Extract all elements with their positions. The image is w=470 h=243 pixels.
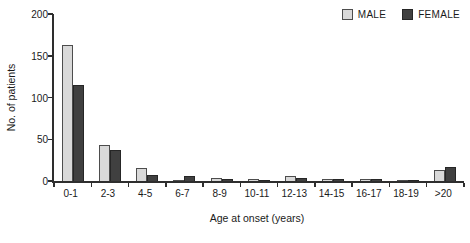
- bar-male-14-15: [322, 179, 333, 182]
- bar-male->20: [434, 170, 445, 181]
- bar-group: [203, 14, 240, 181]
- y-tick-label: 50: [18, 134, 48, 145]
- legend-label-male: MALE: [358, 9, 386, 20]
- x-tick-mark: [240, 183, 242, 187]
- x-tick-mark: [165, 183, 167, 187]
- y-tick-mark: [48, 97, 53, 99]
- bar-male-2-3: [99, 145, 110, 181]
- bar-male-16-17: [360, 179, 371, 182]
- x-tick-label: 8-9: [201, 188, 238, 199]
- legend-item-female: FEMALE: [402, 9, 460, 20]
- y-tick-mark: [48, 13, 53, 15]
- bar-male-4-5: [136, 168, 147, 181]
- legend-item-male: MALE: [342, 9, 386, 20]
- x-tick-mark: [351, 183, 353, 187]
- y-tick-mark: [48, 180, 53, 182]
- x-tick-mark: [202, 183, 204, 187]
- male-swatch-icon: [342, 9, 353, 20]
- x-tick-label: 10-11: [238, 188, 275, 199]
- bar-female-2-3: [110, 150, 121, 181]
- x-tick-label: 0-1: [52, 188, 89, 199]
- bar-female-10-11: [259, 180, 270, 181]
- x-axis-title: Age at onset (years): [52, 212, 462, 224]
- female-swatch-icon: [402, 9, 413, 20]
- y-tick-label: 150: [18, 50, 48, 61]
- bar-female-6-7: [184, 176, 195, 181]
- bar-male-18-19: [397, 180, 408, 181]
- plot-area: 050100150200: [52, 14, 464, 183]
- y-tick-label: 100: [18, 92, 48, 103]
- x-tick-mark: [463, 183, 465, 187]
- bar-female-18-19: [408, 180, 419, 181]
- bar-group: [389, 14, 426, 181]
- bar-female-8-9: [222, 179, 233, 181]
- bar-group: [54, 14, 91, 181]
- bar-female-14-15: [333, 179, 344, 181]
- legend-label-female: FEMALE: [418, 9, 460, 20]
- bar-group: [91, 14, 128, 181]
- x-tick-mark: [91, 183, 93, 187]
- bar-group: [352, 14, 389, 181]
- x-tick-mark: [426, 183, 428, 187]
- x-tick-mark: [53, 183, 55, 187]
- x-tick-label: 18-19: [387, 188, 424, 199]
- x-tick-label: 6-7: [164, 188, 201, 199]
- y-tick-mark: [48, 139, 53, 141]
- x-tick-label: 2-3: [89, 188, 126, 199]
- bar-group: [166, 14, 203, 181]
- x-tick-label: 14-15: [313, 188, 350, 199]
- bar-female-4-5: [147, 175, 158, 181]
- bar-group: [427, 14, 464, 181]
- x-tick-label: >20: [425, 188, 462, 199]
- bar-chart: No. of patients 050100150200 0-12-34-56-…: [0, 0, 470, 243]
- bar-group: [315, 14, 352, 181]
- bar-group: [240, 14, 277, 181]
- x-tick-mark: [389, 183, 391, 187]
- x-axis-labels: 0-12-34-56-78-910-1112-1314-1516-1718-19…: [52, 188, 462, 199]
- y-axis-title: No. of patients: [5, 14, 18, 181]
- bar-group: [278, 14, 315, 181]
- bar-female-0-1: [73, 85, 84, 181]
- x-tick-label: 4-5: [127, 188, 164, 199]
- bar-groups: [54, 14, 464, 181]
- legend: MALE FEMALE: [342, 9, 460, 20]
- bar-male-0-1: [62, 45, 73, 181]
- x-tick-label: 12-13: [276, 188, 313, 199]
- bar-group: [129, 14, 166, 181]
- x-tick-mark: [314, 183, 316, 187]
- bar-male-8-9: [211, 178, 222, 181]
- x-tick-mark: [277, 183, 279, 187]
- x-tick-mark: [128, 183, 130, 187]
- bar-female->20: [445, 167, 456, 181]
- bar-female-12-13: [296, 178, 307, 181]
- y-tick-mark: [48, 55, 53, 57]
- y-tick-label: 200: [18, 9, 48, 20]
- bar-male-10-11: [248, 179, 259, 181]
- bar-male-12-13: [285, 176, 296, 181]
- bar-male-6-7: [173, 180, 184, 181]
- x-tick-label: 16-17: [350, 188, 387, 199]
- y-tick-label: 0: [18, 176, 48, 187]
- bar-female-16-17: [371, 179, 382, 181]
